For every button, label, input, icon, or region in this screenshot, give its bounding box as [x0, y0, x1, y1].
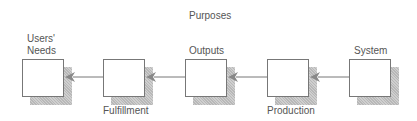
flow-diagram: Purposes Users' Needs Fulfillment Output…: [0, 0, 417, 121]
edges-layer: [0, 0, 417, 121]
